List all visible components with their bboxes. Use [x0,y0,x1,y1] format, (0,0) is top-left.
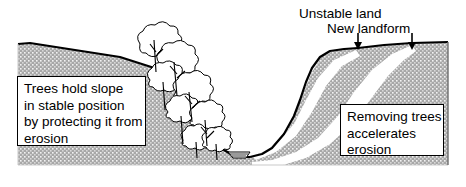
callout-removing-trees: Removing trees accelerates erosion [340,104,444,156]
annotation-new-landform: New landform [327,21,410,36]
erosion-diagram-figure: Unstable land New landform Trees hold sl… [0,0,466,187]
callout-trees-hold-slope: Trees hold slope in stable position by p… [17,76,146,146]
annotation-unstable-land: Unstable land [299,6,382,21]
